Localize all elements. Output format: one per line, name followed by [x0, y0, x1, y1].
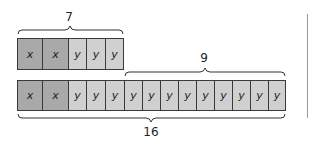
top-cell-5: y — [105, 38, 124, 70]
top-cell-4: y — [86, 38, 106, 70]
bottom-cell-1: x — [17, 80, 43, 111]
top-cell-3: y — [68, 38, 87, 70]
bottom-cell-13: y — [250, 80, 269, 111]
sixteen-brace-label: 16 — [136, 125, 166, 139]
bottom-cell-9: y — [178, 80, 197, 111]
top-cell-2: x — [42, 38, 69, 70]
bottom-cell-8: y — [160, 80, 179, 111]
bottom-cell-4: y — [86, 80, 106, 111]
bottom-cell-3: y — [68, 80, 87, 111]
bottom-cell-2: x — [42, 80, 69, 111]
bottom-cell-14: y — [268, 80, 286, 111]
nine-brace-label: 9 — [189, 51, 219, 65]
bottom-cell-7: y — [142, 80, 161, 111]
bottom-cell-6: y — [124, 80, 143, 111]
top-brace — [17, 25, 124, 35]
sixteen-brace — [17, 113, 286, 123]
bottom-cell-5: y — [105, 80, 125, 111]
top-cell-1: x — [17, 38, 43, 70]
bottom-cell-11: y — [214, 80, 233, 111]
bottom-cell-10: y — [196, 80, 215, 111]
nine-brace — [124, 67, 286, 77]
top-brace-label: 7 — [54, 10, 84, 24]
divider-line — [307, 14, 308, 118]
bottom-cell-12: y — [232, 80, 251, 111]
